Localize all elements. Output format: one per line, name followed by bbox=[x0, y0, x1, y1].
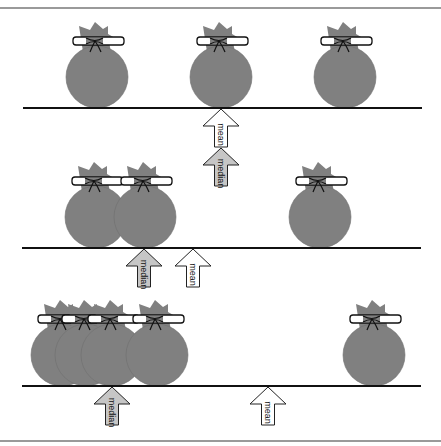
median-label: median bbox=[139, 260, 149, 290]
beam-panel-3: medianmean bbox=[22, 300, 421, 427]
money-bag-icon bbox=[190, 22, 252, 108]
money-bag-icon bbox=[126, 300, 188, 386]
money-bag-icon bbox=[343, 300, 405, 386]
mean-label: mean bbox=[188, 263, 198, 286]
mean-arrow: mean bbox=[250, 387, 286, 425]
money-bag-icon bbox=[314, 22, 376, 108]
money-bag-icon bbox=[114, 162, 176, 248]
median-arrow: median bbox=[203, 148, 239, 188]
mean-label: mean bbox=[263, 401, 273, 424]
median-label: median bbox=[216, 159, 226, 189]
median-arrow: median bbox=[94, 387, 130, 427]
median-arrow: median bbox=[126, 249, 162, 289]
median-label: median bbox=[107, 398, 117, 428]
beam-panel-1: meanmedian bbox=[23, 22, 422, 188]
mean-label: mean bbox=[216, 123, 226, 146]
mean-arrow: mean bbox=[203, 109, 239, 147]
mean-arrow: mean bbox=[175, 249, 211, 287]
money-bag-icon bbox=[66, 22, 128, 108]
mean-median-diagram: meanmedianmedianmeanmedianmean bbox=[0, 0, 441, 446]
money-bag-icon bbox=[289, 162, 351, 248]
